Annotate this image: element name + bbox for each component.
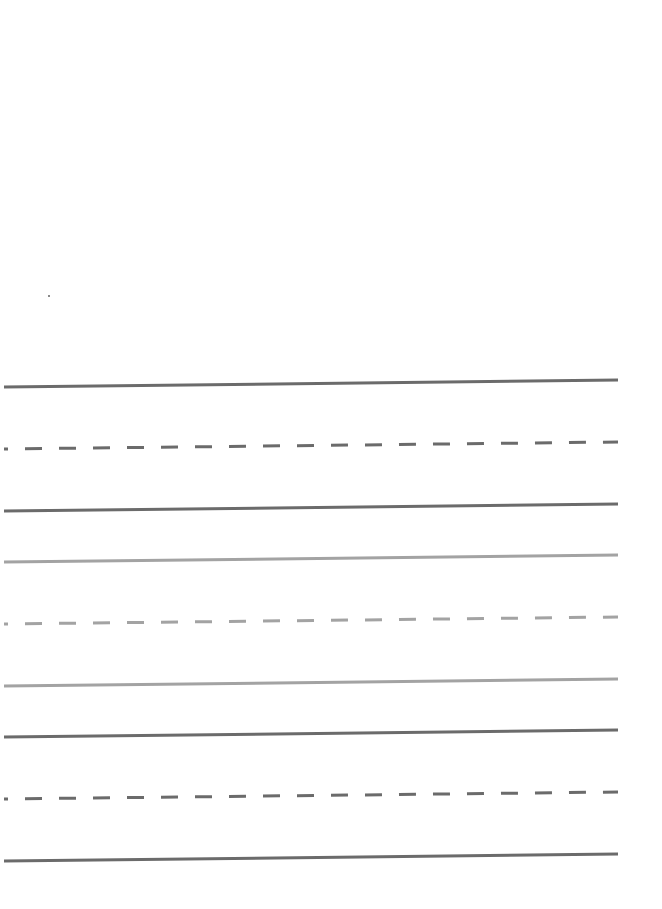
practice-sheet bbox=[0, 0, 662, 909]
top-line bbox=[4, 380, 618, 387]
base-line bbox=[4, 854, 618, 861]
mid-line bbox=[4, 442, 618, 449]
base-line bbox=[4, 679, 618, 686]
mid-line bbox=[4, 617, 618, 624]
line-group-1 bbox=[4, 380, 618, 511]
top-line bbox=[4, 555, 618, 562]
ruled-lines bbox=[0, 0, 662, 909]
line-group-2 bbox=[4, 555, 618, 686]
line-group-3 bbox=[4, 730, 618, 861]
top-line bbox=[4, 730, 618, 737]
base-line bbox=[4, 504, 618, 511]
mid-line bbox=[4, 792, 618, 799]
